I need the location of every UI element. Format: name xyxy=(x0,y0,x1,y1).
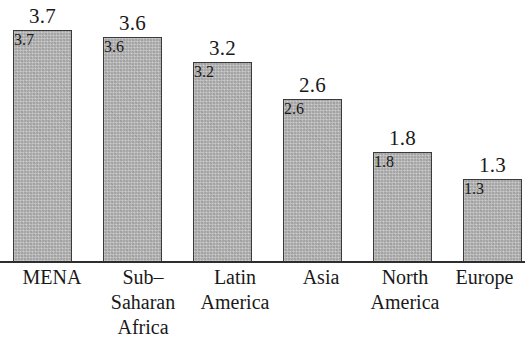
bar-group: 3.63.6 xyxy=(103,1,162,262)
bar[interactable]: 3.6 xyxy=(103,37,162,262)
bar-value-label: 1.3 xyxy=(463,154,522,176)
bar-value-label: 1.8 xyxy=(373,127,432,149)
bar[interactable]: 1.3 xyxy=(463,179,522,262)
bar-chart: 3.73.73.63.63.23.22.62.61.81.81.31.3 MEN… xyxy=(0,0,525,342)
category-label-line: America xyxy=(350,290,460,315)
bar-value-label: 3.7 xyxy=(13,5,72,27)
category-label-line: Africa xyxy=(88,315,198,340)
category-label-line: Europe xyxy=(444,265,525,290)
bar-group: 1.31.3 xyxy=(463,1,522,262)
bar-group: 2.62.6 xyxy=(283,1,342,262)
bar[interactable]: 3.2 xyxy=(193,62,252,262)
bar[interactable]: 1.8 xyxy=(373,152,432,262)
bar-value-label: 2.6 xyxy=(283,74,342,96)
bar-group: 3.23.2 xyxy=(193,1,252,262)
bar-value-label: 3.6 xyxy=(103,12,162,34)
x-axis-line xyxy=(0,261,525,263)
bar-group: 1.81.8 xyxy=(373,1,432,262)
bar[interactable]: 3.7 xyxy=(13,30,72,262)
category-label-europe: Europe xyxy=(444,265,525,290)
x-axis-category-labels: MENASub–SaharanAfricaLatinAmericaAsiaNor… xyxy=(0,265,525,342)
category-label-line: America xyxy=(180,290,290,315)
plot-area: 3.73.73.63.63.23.22.62.61.81.81.31.3 xyxy=(0,0,525,262)
bar[interactable]: 2.6 xyxy=(283,99,342,262)
bar-group: 3.73.7 xyxy=(13,1,72,262)
bar-value-label: 3.2 xyxy=(193,37,252,59)
